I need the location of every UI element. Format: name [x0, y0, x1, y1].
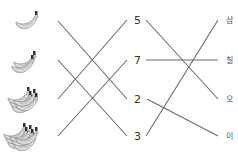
- banana-group-4-icon: [4, 123, 38, 151]
- banana-group-2-icon: [12, 51, 36, 73]
- number-2: 2: [134, 93, 141, 106]
- number-column: 5 7 2 3: [134, 14, 141, 143]
- banana-group-1-icon: [16, 11, 38, 29]
- banana-group-3-icon: [8, 87, 38, 113]
- left-connection-lines: [58, 20, 127, 136]
- korean-o: 오: [226, 95, 233, 104]
- korean-i: 이: [226, 131, 233, 141]
- number-5: 5: [134, 14, 141, 27]
- number-3: 3: [134, 130, 141, 143]
- matching-diagram: 5 7 2 3 삼 칠 오 이: [0, 0, 238, 153]
- korean-chil: 칠: [226, 56, 233, 65]
- korean-word-column: 삼 칠 오 이: [226, 15, 234, 141]
- right-connection-lines: [146, 20, 218, 136]
- number-7: 7: [134, 54, 141, 67]
- korean-sam: 삼: [226, 15, 234, 25]
